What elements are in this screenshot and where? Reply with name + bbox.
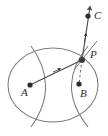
hyperbola-left-branch [31,46,46,127]
label-A: A [20,86,28,98]
label-P: P [89,48,97,60]
label-B: B [80,87,87,99]
geometry-figure: A B P C [0,0,108,136]
figure-canvas: A B P C [0,0,108,136]
point-B [76,81,81,86]
point-P [79,57,85,63]
label-C: C [94,9,102,21]
point-C [85,13,90,18]
ray-a-through-p-to-c [30,60,82,85]
ray-upper-direction-arrow-icon [85,34,86,42]
point-A [27,82,32,87]
